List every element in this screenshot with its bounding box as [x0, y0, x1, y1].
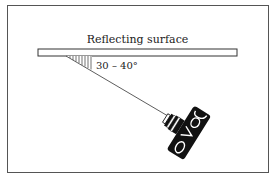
camera-icon: [151, 96, 211, 160]
diagram-graphics: [0, 0, 275, 182]
reflecting-surface-bar: [38, 49, 237, 56]
sight-line: [66, 56, 173, 119]
